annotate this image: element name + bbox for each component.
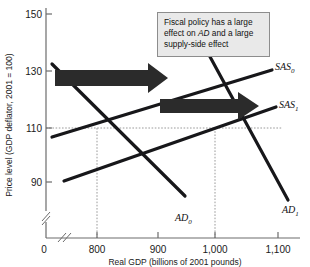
curve-label-sas0: SAS0 — [275, 61, 295, 75]
annotation-callout: Fiscal policy has a large effect on AD a… — [157, 12, 270, 57]
curve-sas1 — [64, 107, 276, 181]
x-tick-label-1100: 1,100 — [265, 244, 290, 255]
ad-shift-arrow — [55, 63, 168, 93]
economics-chart: 150 130 110 90 0 800 900 1,000 1,100 Pri… — [0, 0, 310, 267]
x-tick-label-900: 900 — [150, 244, 167, 255]
y-axis-break-mark-1 — [42, 212, 50, 221]
curve-label-ad0: AD0 — [174, 212, 192, 226]
curve-label-ad1: AD1 — [281, 204, 299, 218]
y-tick-label-130: 130 — [25, 66, 42, 77]
x-axis-title: Real GDP (billions of 2001 pounds) — [108, 257, 241, 267]
sas-shift-arrow — [160, 92, 259, 120]
x-tick-label-800: 800 — [89, 244, 106, 255]
curve-label-sas1: SAS1 — [279, 99, 299, 113]
y-axis-title: Price level (GDP deflator, 2001 = 100) — [4, 53, 14, 196]
y-tick-label-90: 90 — [31, 177, 43, 188]
y-tick-label-150: 150 — [25, 9, 42, 20]
origin-label: 0 — [41, 244, 47, 255]
x-tick-label-1000: 1,000 — [202, 244, 227, 255]
y-tick-label-110: 110 — [26, 123, 42, 134]
curve-labels: SAS0 SAS1 AD0 AD1 — [174, 61, 299, 226]
annotation-text-italic: AD — [198, 28, 210, 38]
